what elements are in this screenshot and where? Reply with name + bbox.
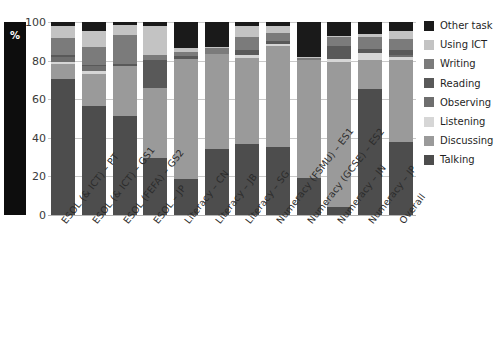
legend-swatch-icon	[424, 136, 434, 146]
top-crop-artifact	[0, 0, 502, 6]
bar-segment-discussing	[389, 60, 413, 142]
bar-segment-other-task	[205, 22, 229, 47]
bar-segment-writing	[113, 35, 137, 65]
legend-item-listening[interactable]: Listening	[424, 112, 502, 131]
legend-swatch-icon	[424, 97, 434, 107]
bar-segment-other-task	[297, 22, 321, 57]
legend-label: Listening	[440, 116, 485, 127]
legend-label: Reading	[440, 78, 481, 89]
bar-segment-discussing	[82, 74, 106, 106]
bar-segment-discussing	[266, 46, 290, 146]
bar-segment-other-task	[389, 22, 413, 31]
y-tick-label-80: 80	[20, 54, 46, 67]
bar-segment-other-task	[358, 22, 382, 34]
legend-label: Other task	[440, 20, 493, 31]
bar-1[interactable]	[51, 22, 75, 215]
bar-segment-reading	[143, 60, 167, 88]
stacked-bar-chart: % 020406080100 ESOL (& ICT) – PTESOL (& …	[0, 0, 502, 337]
percent-symbol-label: %	[10, 30, 20, 41]
bar-segment-discussing	[297, 60, 321, 179]
legend-swatch-icon	[424, 78, 434, 88]
bar-segment-other-task	[327, 22, 351, 36]
bar-segment-using-ict	[235, 26, 259, 38]
legend-item-other-task[interactable]: Other task	[424, 16, 502, 35]
x-axis: ESOL (& ICT) – PTESOL (& ICT) – GS1ESOL …	[0, 215, 502, 337]
bar-segment-using-ict	[82, 31, 106, 47]
legend-item-reading[interactable]: Reading	[424, 74, 502, 93]
bar-segment-writing	[327, 37, 351, 46]
legend-swatch-icon	[424, 59, 434, 69]
bar-segment-listening	[358, 53, 382, 60]
legend-label: Observing	[440, 97, 491, 108]
bar-segment-using-ict	[389, 31, 413, 40]
legend-item-observing[interactable]: Observing	[424, 93, 502, 112]
legend-swatch-icon	[424, 155, 434, 165]
bar-segment-using-ict	[113, 25, 137, 35]
bar-segment-writing	[266, 33, 290, 42]
bar-segment-writing	[82, 47, 106, 64]
bar-segment-talking	[51, 79, 75, 215]
legend-label: Using ICT	[440, 39, 487, 50]
bar-segment-other-task	[174, 22, 198, 48]
legend-item-talking[interactable]: Talking	[424, 150, 502, 169]
y-tick-label-100: 100	[20, 16, 46, 29]
legend-item-using-ict[interactable]: Using ICT	[424, 35, 502, 54]
bar-segment-discussing	[205, 54, 229, 150]
bar-segment-discussing	[235, 58, 259, 144]
legend-swatch-icon	[424, 117, 434, 127]
bar-segment-discussing	[358, 60, 382, 89]
y-tick-label-20: 20	[20, 170, 46, 183]
legend-label: Discussing	[440, 135, 493, 146]
bar-segment-discussing	[113, 66, 137, 115]
y-tick-label-60: 60	[20, 93, 46, 106]
bar-segment-discussing	[51, 64, 75, 78]
bar-segment-writing	[235, 37, 259, 50]
y-tick-label-40: 40	[20, 131, 46, 144]
bar-segment-writing	[51, 38, 75, 54]
chart-legend: Other taskUsing ICTWritingReadingObservi…	[424, 16, 502, 170]
bar-segment-reading	[327, 46, 351, 59]
legend-swatch-icon	[424, 21, 434, 31]
legend-label: Talking	[440, 154, 475, 165]
bar-segment-writing	[358, 37, 382, 49]
legend-swatch-icon	[424, 40, 434, 50]
bar-segment-writing	[389, 39, 413, 50]
legend-item-discussing[interactable]: Discussing	[424, 131, 502, 150]
bar-segment-other-task	[82, 22, 106, 31]
legend-label: Writing	[440, 58, 476, 69]
legend-item-writing[interactable]: Writing	[424, 54, 502, 73]
bar-segment-using-ict	[143, 26, 167, 55]
bar-segment-using-ict	[51, 26, 75, 39]
bar-segment-using-ict	[266, 26, 290, 33]
